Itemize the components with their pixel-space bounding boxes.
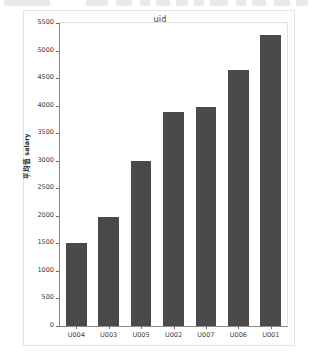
y-axis-tick-mark (56, 243, 59, 244)
x-axis-tick-label: U001 (255, 331, 287, 339)
toolbar-item[interactable] (140, 0, 150, 6)
chart-card: uid 050010001500200025003000350040004500… (23, 10, 295, 346)
y-axis-tick-mark (56, 216, 59, 217)
bar[interactable] (196, 107, 217, 326)
y-axis-tick-label: 1500 (37, 238, 54, 246)
y-axis-tick-label: 0 (50, 321, 54, 329)
y-axis-tick-mark (56, 23, 59, 24)
x-axis-tick-label: U006 (222, 331, 254, 339)
x-axis-tick-label: U007 (190, 331, 222, 339)
bar[interactable] (98, 217, 119, 326)
x-axis-tick-mark (174, 326, 175, 329)
y-axis-tick-mark (56, 78, 59, 79)
bar-column[interactable] (98, 23, 119, 326)
x-axis-tick-label: U004 (60, 331, 92, 339)
bar[interactable] (228, 70, 249, 326)
toolbar-item[interactable] (116, 0, 132, 6)
bar[interactable] (131, 161, 152, 326)
y-axis-tick-mark (56, 188, 59, 189)
toolbar-item[interactable] (274, 0, 290, 6)
x-axis-tick-mark (271, 326, 272, 329)
toolbar-item[interactable] (156, 0, 170, 6)
y-axis-tick-mark (56, 271, 59, 272)
x-axis-tick-label: U003 (92, 331, 124, 339)
bar-column[interactable] (228, 23, 249, 326)
toolbar-item[interactable] (4, 0, 50, 6)
toolbar-item[interactable] (252, 0, 266, 6)
toolbar-item[interactable] (194, 0, 204, 6)
x-axis: U004U003U005U002U007U006U001 (60, 328, 287, 342)
y-axis-tick-mark (56, 326, 59, 327)
y-axis-tick-label: 5500 (37, 18, 54, 26)
y-axis-tick-label: 3000 (37, 156, 54, 164)
x-axis-tick-label: U005 (125, 331, 157, 339)
y-axis-tick-label: 1000 (37, 266, 54, 274)
x-axis-tick-mark (76, 326, 77, 329)
bar-column[interactable] (163, 23, 184, 326)
bar-column[interactable] (260, 23, 281, 326)
x-axis-tick-mark (238, 326, 239, 329)
y-axis-tick-label: 500 (42, 293, 54, 301)
bar-series (60, 23, 287, 326)
toolbar-item[interactable] (210, 0, 228, 6)
y-axis-tick-label: 2500 (37, 183, 54, 191)
bar[interactable] (66, 243, 87, 326)
bar-column[interactable] (66, 23, 87, 326)
toolbar-item[interactable] (236, 0, 246, 6)
toolbar-strip (0, 0, 313, 9)
bar-column[interactable] (131, 23, 152, 326)
y-axis-tick-mark (56, 161, 59, 162)
bar[interactable] (260, 35, 281, 326)
y-axis-tick-mark (56, 298, 59, 299)
bar[interactable] (163, 112, 184, 326)
y-axis-tick-mark (56, 133, 59, 134)
y-axis-tick-label: 4000 (37, 101, 54, 109)
toolbar-item[interactable] (86, 0, 108, 6)
toolbar-item[interactable] (296, 0, 308, 6)
x-axis-tick-mark (206, 326, 207, 329)
x-axis-tick-mark (141, 326, 142, 329)
bar-column[interactable] (196, 23, 217, 326)
y-axis-tick-mark (56, 51, 59, 52)
y-axis-tick-label: 2000 (37, 211, 54, 219)
y-axis-tick-label: 4500 (37, 73, 54, 81)
x-axis-tick-mark (109, 326, 110, 329)
x-axis-tick-label: U002 (157, 331, 189, 339)
y-axis-tick-label: 3500 (37, 128, 54, 136)
y-axis-title: 平均值 salary (21, 59, 31, 179)
y-axis-tick-label: 5000 (37, 46, 54, 54)
toolbar-item[interactable] (176, 0, 188, 6)
y-axis-tick-mark (56, 106, 59, 107)
